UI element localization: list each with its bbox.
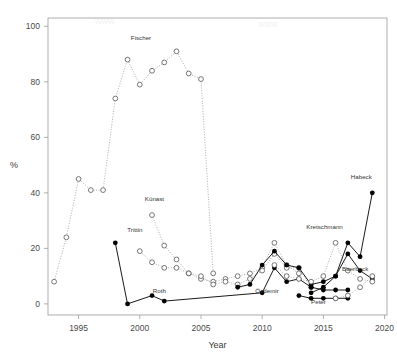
data-point-fischer xyxy=(88,188,93,193)
data-point-roth xyxy=(125,301,130,306)
data-point-trittin xyxy=(260,268,265,273)
data-point-kretschmann xyxy=(296,277,301,282)
series-label-kretschmann: Kretschmann xyxy=(306,223,343,230)
data-point-roth xyxy=(333,288,338,293)
data-point-habeck xyxy=(309,290,314,295)
series-label-zdemir: Özdemir xyxy=(255,287,278,294)
data-point-baerbock xyxy=(333,296,338,301)
data-point-künast xyxy=(174,257,179,262)
series-label-peter: Peter xyxy=(311,298,326,305)
watermark-artifact-left: www xyxy=(94,16,115,26)
data-point-özdemir xyxy=(321,279,326,284)
y-tick-label: 0 xyxy=(35,299,40,309)
data-point-kretschmann xyxy=(333,240,338,245)
data-point-fischer xyxy=(64,235,69,240)
data-point-özdemir xyxy=(272,249,277,254)
data-point-habeck xyxy=(370,190,375,195)
x-tick-label: 2010 xyxy=(253,323,272,333)
series-label-baerbock: Baerbock xyxy=(342,265,369,272)
data-point-fischer xyxy=(150,68,155,73)
data-point-özdemir xyxy=(248,282,253,287)
data-point-trittin xyxy=(137,249,142,254)
data-point-fischer xyxy=(199,77,204,82)
y-tick-label: 80 xyxy=(31,77,41,87)
data-point-fischer xyxy=(101,188,106,193)
data-point-özdemir xyxy=(260,263,265,268)
x-tick-label: 2015 xyxy=(314,323,333,333)
data-point-kretschmann xyxy=(370,279,375,284)
data-point-trittin xyxy=(162,265,167,270)
data-point-roth xyxy=(150,293,155,298)
x-tick-label: 1995 xyxy=(69,323,88,333)
data-point-habeck xyxy=(321,285,326,290)
series-label-fischer: Fischer xyxy=(131,34,151,41)
data-point-trittin xyxy=(186,271,191,276)
data-point-kretschmann xyxy=(284,274,289,279)
data-point-kretschmann xyxy=(321,274,326,279)
data-point-fischer xyxy=(52,279,57,284)
y-axis-title: % xyxy=(10,160,18,170)
series-line-baerbock xyxy=(336,276,373,298)
data-point-kretschmann xyxy=(309,279,314,284)
series-label-roth: Roth xyxy=(153,287,167,294)
data-point-habeck xyxy=(358,254,363,259)
data-point-habeck xyxy=(345,240,350,245)
data-point-habeck xyxy=(333,274,338,279)
watermark-artifact-right: www xyxy=(257,19,278,29)
data-point-kretschmann xyxy=(358,277,363,282)
data-point-baerbock xyxy=(370,274,375,279)
x-axis-title: Year xyxy=(208,340,226,350)
x-tick-label: 2005 xyxy=(192,323,211,333)
data-point-roth xyxy=(162,299,167,304)
data-point-fischer xyxy=(162,60,167,65)
data-point-fischer xyxy=(174,49,179,54)
data-point-künast xyxy=(296,271,301,276)
data-point-fischer xyxy=(186,71,191,76)
x-tick-label: 2020 xyxy=(375,323,394,333)
data-point-fischer xyxy=(76,177,81,182)
data-point-özdemir xyxy=(235,285,240,290)
data-point-künast xyxy=(150,213,155,218)
y-tick-label: 40 xyxy=(31,188,41,198)
series-line-habeck xyxy=(311,193,372,293)
chart-container: wwwwww020406080100%199520002005201020152… xyxy=(0,0,397,357)
data-point-fischer xyxy=(113,96,118,101)
data-point-peter xyxy=(296,293,301,298)
data-point-trittin xyxy=(248,277,253,282)
x-tick-label: 2000 xyxy=(130,323,149,333)
series-label-knast: Künast xyxy=(145,195,165,202)
scatter-plot: wwwwww020406080100%199520002005201020152… xyxy=(0,0,397,357)
data-point-özdemir xyxy=(345,252,350,257)
data-point-roth xyxy=(113,240,118,245)
y-tick-label: 20 xyxy=(31,243,41,253)
series-label-trittin: Trittin xyxy=(127,226,143,233)
y-tick-label: 60 xyxy=(31,132,41,142)
data-point-trittin xyxy=(223,279,228,284)
plot-frame xyxy=(48,18,387,315)
data-point-künast xyxy=(235,274,240,279)
data-point-künast xyxy=(162,243,167,248)
y-tick-label: 100 xyxy=(26,21,40,31)
data-point-özdemir xyxy=(284,263,289,268)
data-point-trittin xyxy=(150,260,155,265)
data-point-baerbock xyxy=(358,285,363,290)
data-point-künast xyxy=(272,240,277,245)
data-point-trittin xyxy=(174,265,179,270)
data-point-roth xyxy=(345,288,350,293)
data-point-fischer xyxy=(137,82,142,87)
data-point-fischer xyxy=(125,57,130,62)
data-point-kretschmann xyxy=(272,263,277,268)
data-point-trittin xyxy=(199,274,204,279)
series-line-künast xyxy=(152,215,299,282)
data-point-özdemir xyxy=(296,265,301,270)
series-line-fischer xyxy=(54,51,213,281)
data-point-trittin xyxy=(211,282,216,287)
data-point-künast xyxy=(248,271,253,276)
series-label-habeck: Habeck xyxy=(351,173,373,180)
data-point-roth xyxy=(284,279,289,284)
data-point-fischer xyxy=(211,271,216,276)
data-point-baerbock xyxy=(345,293,350,298)
